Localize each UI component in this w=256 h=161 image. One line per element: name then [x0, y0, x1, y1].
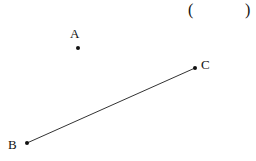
point-a-label: A [70, 27, 79, 40]
point-c-dot [193, 66, 197, 70]
point-c-label: C [201, 58, 210, 71]
segment-bc [27, 68, 195, 143]
point-b-label: B [8, 138, 17, 151]
point-a-dot [76, 46, 80, 50]
geometry-diagram: ( ) A B C [0, 0, 256, 161]
diagram-svg [0, 0, 256, 161]
point-b-dot [25, 141, 29, 145]
